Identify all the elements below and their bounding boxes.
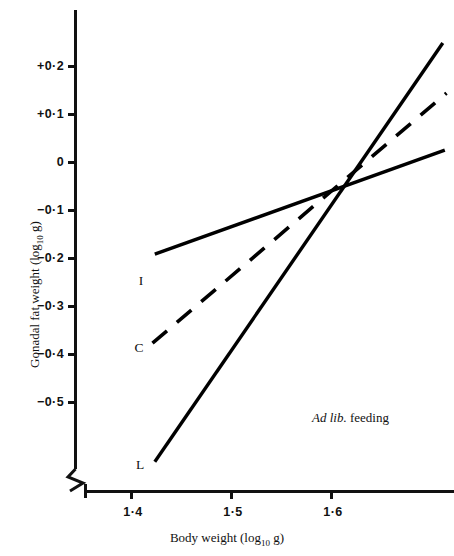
y-axis-title: Gonadal fat weight (log10 g) [28, 221, 45, 368]
y-tick-label: 0 [20, 156, 64, 169]
figure-container: +0·2 +0·1 0 −0·1 −0·2 −0·3 −0·4 −0·5 1·4… [0, 0, 454, 556]
annotation-ad-lib-feeding: Ad lib. feeding [312, 411, 389, 424]
annotation-roman-text: feeding [347, 410, 389, 425]
series-line-I [155, 150, 445, 254]
x-axis-title: Body weight (log10 g) [170, 531, 284, 548]
series-line-L [155, 43, 443, 462]
y-tick-label: +0·2 [20, 60, 64, 73]
y-axis-title-tail: g) [27, 221, 42, 235]
x-axis-title-tail: g) [270, 530, 284, 545]
chart-canvas [0, 0, 454, 556]
series-label-C: C [134, 341, 143, 355]
y-tick-label: −0·1 [20, 204, 64, 217]
x-axis-title-main: Body weight (log [170, 530, 261, 545]
series-line-C [153, 93, 447, 343]
axis-break-symbol [68, 469, 83, 491]
series-label-I: I [139, 274, 144, 288]
x-axis-title-subscript: 10 [261, 538, 270, 548]
y-axis-title-subscript: 10 [35, 235, 45, 244]
y-axis-title-main: Gonadal fat weight (log [27, 244, 42, 368]
x-tick-label: 1·6 [323, 506, 342, 519]
series-label-L: L [136, 458, 144, 472]
y-tick-label: −0·5 [20, 396, 64, 409]
y-tick-label: +0·1 [20, 108, 64, 121]
x-tick-label: 1·4 [123, 506, 142, 519]
x-tick-label: 1·5 [223, 506, 242, 519]
annotation-italic-text: Ad lib. [312, 410, 347, 425]
